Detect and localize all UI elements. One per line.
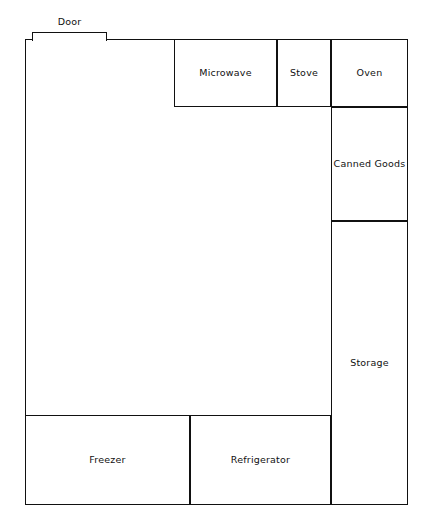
zone-microwave-label: Microwave (199, 68, 251, 78)
zone-refrigerator-label: Refrigerator (231, 455, 290, 465)
zone-canned-goods: Canned Goods (331, 107, 408, 221)
zone-canned-goods-label: Canned Goods (334, 159, 406, 169)
zone-microwave: Microwave (174, 39, 277, 107)
zone-storage: Storage (331, 221, 408, 505)
zone-storage-label: Storage (350, 358, 389, 368)
door-label: Door (32, 16, 107, 27)
zone-oven-label: Oven (357, 68, 383, 78)
zone-stove: Stove (277, 39, 331, 107)
zone-stove-label: Stove (290, 68, 318, 78)
zone-freezer: Freezer (25, 415, 190, 505)
zone-oven: Oven (331, 39, 408, 107)
door-opening (32, 32, 107, 41)
zone-refrigerator: Refrigerator (190, 415, 331, 505)
zone-freezer-label: Freezer (89, 455, 125, 465)
floor-plan-diagram: Door Microwave Stove Oven Canned Goods S… (0, 0, 427, 532)
